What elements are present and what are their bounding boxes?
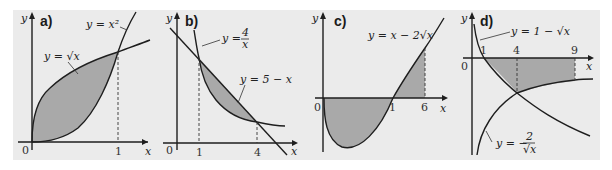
origin-label: 0 [314,101,321,114]
origin-label: 0 [461,60,468,73]
panel-label-d: d) [480,13,493,29]
svg-text:√x: √x [523,143,537,156]
curve-label-x-minus-2-sqrt-x: y = x − 2√x [367,29,434,42]
x-tick-1: 1 [196,146,203,159]
y-arrow-icon [29,12,35,19]
shaded-region-c-below [324,98,393,148]
leader-line [120,27,127,30]
x-axis-label: x [145,145,152,158]
curve-label-sqrt-x: y = √x [43,50,80,63]
x-tick-1: 1 [115,145,122,158]
y-arrow-icon [320,12,326,19]
panel-d: d) y x 0 1 4 9 y = 1 − √x y = − 2 √x [460,12,594,156]
x-tick-4: 4 [513,44,520,57]
shaded-region-a [32,52,118,142]
panel-label-a: a) [40,13,52,29]
curve-5-minus-x [170,28,287,155]
leader-line [202,40,220,46]
figure: a) y x 0 1 y = x² y = √x b) y x 0 1 4 y … [0,0,612,170]
panel-label-b: b) [185,13,198,29]
x-axis-label: x [586,60,593,73]
panel-c: c) y x 0 1 6 y = x − 2√x [311,12,448,152]
curve-label-x-squared: y = x² [85,18,119,31]
x-tick-6: 6 [421,101,428,114]
x-tick-9: 9 [571,44,578,57]
curve-label-minus-2-over-sqrt-x: y = − 2 √x [495,130,537,156]
panel-a: a) y x 0 1 y = x² y = √x [18,12,152,158]
y-axis-label: y [165,12,173,25]
panel-label-c: c) [334,13,346,29]
x-arrow-icon [442,95,448,101]
curve-label-4-over-x: y = 4 x [221,26,249,51]
y-axis-label: y [20,12,28,25]
x-tick-1: 1 [480,44,487,57]
panel-b: b) y x 0 1 4 y = 4 x y = 5 − x [163,12,298,159]
leader-line [238,85,245,103]
y-arrow-icon [174,12,180,19]
y-axis-label: y [460,12,468,25]
curve-label-1-minus-sqrt-x: y = 1 − √x [510,25,571,38]
svg-text:x: x [242,38,249,51]
x-axis-label: x [291,145,298,158]
y-axis-label: y [311,12,319,25]
svg-text:2: 2 [525,130,533,143]
x-tick-4: 4 [254,146,261,159]
y-arrow-icon [469,12,475,19]
curve-label-5-minus-x: y = 5 − x [239,73,293,86]
x-axis-label: x [440,102,447,115]
leader-line [480,32,510,40]
svg-text:y =: y = [221,32,241,45]
origin-label: 0 [22,144,29,157]
x-tick-1: 1 [389,101,396,114]
leader-line [486,131,492,142]
origin-label: 0 [166,144,173,157]
